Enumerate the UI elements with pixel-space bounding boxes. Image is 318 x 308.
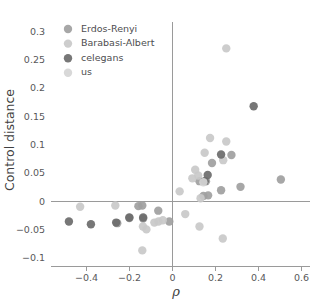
- data-point: [159, 216, 167, 224]
- data-point: [199, 178, 207, 186]
- data-point: [277, 175, 285, 183]
- legend-swatch-barabasi-albert: [64, 39, 72, 47]
- legend-swatch-erdos-renyi: [64, 25, 72, 33]
- data-point: [134, 202, 142, 210]
- data-point: [219, 234, 227, 242]
- x-tick-label: 0: [169, 272, 175, 283]
- data-point: [236, 183, 244, 191]
- data-point: [139, 213, 147, 221]
- legend-label-barabasi-albert: Barabasi-Albert: [81, 37, 155, 48]
- series-erdos-renyi: [113, 151, 285, 227]
- data-point: [181, 210, 189, 218]
- chart-legend: Erdos-RenyiBarabasi-Albertcelegansus: [64, 23, 155, 78]
- y-axis-title: Control distance: [2, 89, 17, 191]
- x-tick-label: −0.4: [75, 272, 98, 283]
- legend-swatch-celegans: [64, 54, 72, 62]
- y-tick-label: 0.2: [30, 82, 45, 93]
- data-point: [125, 213, 133, 221]
- data-point: [222, 44, 230, 52]
- series-barabasi-albert: [76, 44, 231, 254]
- data-point: [203, 171, 211, 179]
- data-point: [175, 187, 183, 195]
- data-point: [196, 194, 204, 202]
- x-tick-label: 0.6: [294, 272, 309, 283]
- series-us: [199, 178, 207, 186]
- y-tick-label: 0.25: [24, 54, 45, 65]
- x-tick-label: 0.4: [251, 272, 266, 283]
- y-tick-label: 0.3: [30, 26, 45, 37]
- legend-swatch-us: [64, 69, 72, 77]
- y-tick-label: 0.1: [30, 139, 45, 150]
- data-point: [138, 246, 146, 254]
- data-point: [76, 203, 84, 211]
- x-axis-title: ρ: [171, 284, 180, 299]
- legend-label-celegans: celegans: [81, 52, 123, 63]
- tick-marks-group: [87, 267, 302, 271]
- data-point: [249, 102, 257, 110]
- scatter-plot-figure: −0.4−0.200.20.40.6−0.1−0.0500.050.10.150…: [0, 0, 318, 308]
- data-point: [111, 201, 119, 209]
- data-point: [217, 150, 225, 158]
- data-point: [195, 222, 203, 230]
- legend-label-erdos-renyi: Erdos-Renyi: [81, 23, 137, 34]
- data-points-group: [65, 44, 285, 254]
- x-tick-label: 0.2: [208, 272, 223, 283]
- scatter-plot-canvas: −0.4−0.200.20.40.6−0.1−0.0500.050.10.150…: [0, 0, 318, 308]
- data-point: [217, 186, 225, 194]
- legend-label-us: us: [81, 66, 92, 77]
- data-point: [87, 220, 95, 228]
- tick-labels-group: −0.4−0.200.20.40.6−0.1−0.0500.050.10.150…: [16, 26, 309, 283]
- data-point: [222, 137, 230, 145]
- data-point: [142, 225, 150, 233]
- y-tick-label: −0.05: [16, 224, 45, 235]
- data-point: [200, 149, 208, 157]
- data-point: [154, 206, 162, 214]
- x-tick-label: −0.2: [118, 272, 141, 283]
- y-tick-label: 0: [39, 196, 45, 207]
- data-point: [112, 218, 120, 226]
- data-point: [65, 217, 73, 225]
- y-tick-label: −0.1: [22, 252, 45, 263]
- data-point: [191, 166, 199, 174]
- y-tick-label: 0.15: [24, 111, 45, 122]
- data-point: [208, 159, 216, 167]
- data-point: [206, 134, 214, 142]
- y-tick-label: 0.05: [24, 167, 45, 178]
- data-point: [227, 151, 235, 159]
